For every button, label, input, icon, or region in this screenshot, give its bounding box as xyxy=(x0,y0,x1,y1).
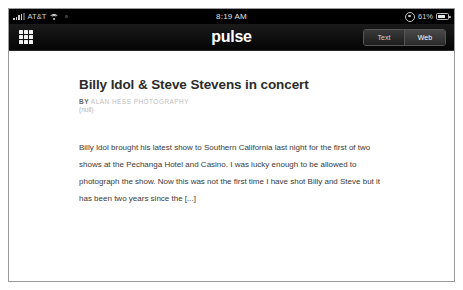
byline-source[interactable]: ALAN HESS PHOTOGRAPHY xyxy=(91,98,189,105)
status-bar-clock: 8:19 AM xyxy=(9,9,454,24)
status-bar: AT&T 8:19 AM 61% xyxy=(9,9,454,24)
battery-percent-label: 61% xyxy=(418,9,433,24)
rotation-lock-icon xyxy=(405,12,415,22)
app-navigation-bar: pulse Text Web xyxy=(9,24,454,51)
article-byline: BY ALAN HESS PHOTOGRAPHY xyxy=(79,98,384,105)
view-mode-web-button[interactable]: Web xyxy=(404,30,445,45)
byline-prefix: BY xyxy=(79,98,89,105)
article-headline: Billy Idol & Steve Stevens in concert xyxy=(79,77,384,92)
status-bar-right: 61% xyxy=(405,9,449,24)
article-content-area[interactable]: Billy Idol & Steve Stevens in concert BY… xyxy=(9,51,454,282)
article-inner: Billy Idol & Steve Stevens in concert BY… xyxy=(9,51,454,207)
article-body-text: Billy Idol brought his latest show to So… xyxy=(79,139,384,207)
battery-icon xyxy=(436,13,449,20)
device-screen: AT&T 8:19 AM 61% pulse Text Web Bil xyxy=(8,8,455,282)
view-mode-text-button[interactable]: Text xyxy=(364,30,404,45)
article-meta: (null) xyxy=(79,106,384,113)
view-mode-toggle[interactable]: Text Web xyxy=(363,29,446,46)
